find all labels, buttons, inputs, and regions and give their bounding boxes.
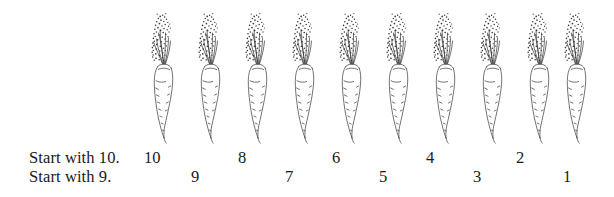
- carrot-icon: [519, 6, 559, 148]
- carrot-icon: [425, 6, 465, 148]
- carrot-icon: [237, 6, 277, 148]
- count-number: 9: [191, 167, 199, 186]
- count-number: 5: [379, 167, 387, 186]
- count-row-start-with-9: Start with 9. 97531: [0, 167, 614, 189]
- row-caption-start-with-9: Start with 9.: [29, 167, 111, 186]
- carrot-icon: [556, 6, 596, 148]
- carrot-icon: [472, 6, 512, 148]
- count-number: 4: [426, 148, 434, 167]
- carrot-icon: [190, 6, 230, 148]
- count-label-rows: Start with 10. 108642 Start with 9. 9753…: [0, 146, 614, 197]
- row-caption-start-with-10: Start with 10.: [29, 148, 120, 167]
- count-number: 8: [238, 148, 246, 167]
- carrot-icon: [284, 6, 324, 148]
- carrot-icon: [378, 6, 418, 148]
- count-number: 2: [516, 148, 524, 167]
- count-number: 1: [563, 167, 571, 186]
- carrot-icon: [331, 6, 371, 148]
- counting-worksheet: Start with 10. 108642 Start with 9. 9753…: [0, 0, 614, 197]
- carrot-icon: [143, 6, 183, 148]
- carrot-illustration-row: [0, 0, 614, 150]
- count-number: 10: [144, 148, 161, 167]
- count-number: 7: [285, 167, 293, 186]
- count-number: 6: [332, 148, 340, 167]
- count-number: 3: [473, 167, 481, 186]
